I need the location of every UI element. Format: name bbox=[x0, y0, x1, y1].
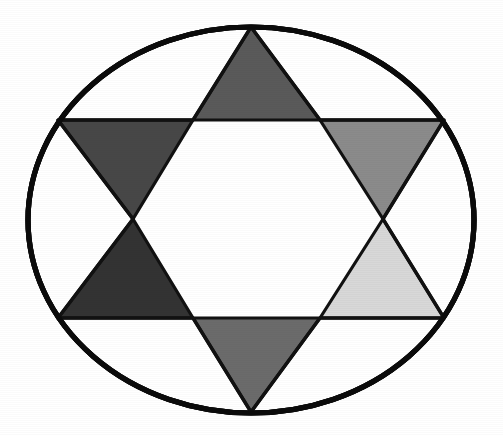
star-point-bottom bbox=[193, 318, 320, 412]
figure-canvas: Hexagram inscribed in an ellipse Six-poi… bbox=[0, 0, 503, 435]
hexagram-figure: Hexagram inscribed in an ellipse Six-poi… bbox=[0, 0, 503, 435]
star-point-top bbox=[193, 27, 320, 120]
